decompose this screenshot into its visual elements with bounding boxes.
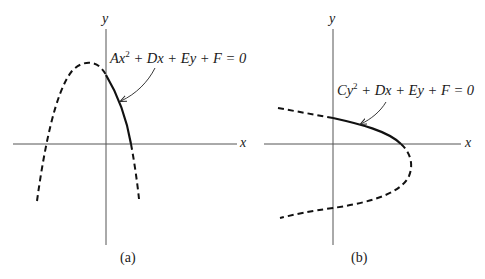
panel-a-pointer-arrow xyxy=(121,68,155,101)
panel-b-parabola-dashed-upper xyxy=(278,108,333,118)
panel-a-parabola-dashed xyxy=(37,63,106,201)
panel-a-x-label: x xyxy=(240,136,246,150)
panel-b-parabola-solid xyxy=(333,118,401,144)
panel-b-equation-term: Cy xyxy=(337,82,353,98)
panel-a-equation-rest: + Dx + Ey + F = 0 xyxy=(130,50,246,66)
panel-a-equation: Ax2 + Dx + Ey + F = 0 xyxy=(110,50,246,66)
panel-a-parabola-dashed-right xyxy=(131,144,139,199)
panel-a-equation-term: Ax xyxy=(110,50,125,66)
panel-a-sublabel: (a) xyxy=(120,251,136,265)
panel-b-sublabel: (b) xyxy=(351,251,367,265)
panel-b-equation-rest: + Dx + Ey + F = 0 xyxy=(358,82,474,98)
panel-b xyxy=(264,29,461,245)
panel-b-pointer-arrow xyxy=(361,102,386,124)
panel-b-equation: Cy2 + Dx + Ey + F = 0 xyxy=(337,82,474,98)
panel-a-parabola-solid xyxy=(106,75,131,144)
panel-b-y-label: y xyxy=(329,12,335,26)
panel-b-x-label: x xyxy=(465,136,471,150)
panel-b-parabola-dashed-lower xyxy=(280,144,411,218)
panel-a-y-label: y xyxy=(102,12,108,26)
conic-parabola-figure: y x Ax2 + Dx + Ey + F = 0 (a) y x Cy2 + … xyxy=(0,0,485,279)
